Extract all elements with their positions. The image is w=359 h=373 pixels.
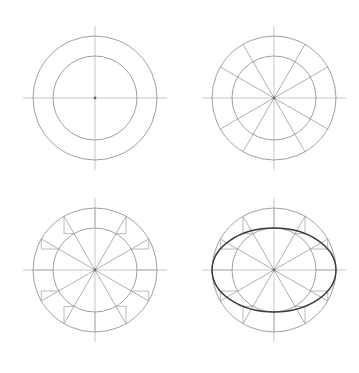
center-point xyxy=(94,269,97,272)
center-point xyxy=(273,97,276,100)
center-point xyxy=(94,97,97,100)
ellipse-construction-figure xyxy=(0,0,359,373)
center-point xyxy=(273,269,276,272)
figure-canvas xyxy=(0,0,359,373)
